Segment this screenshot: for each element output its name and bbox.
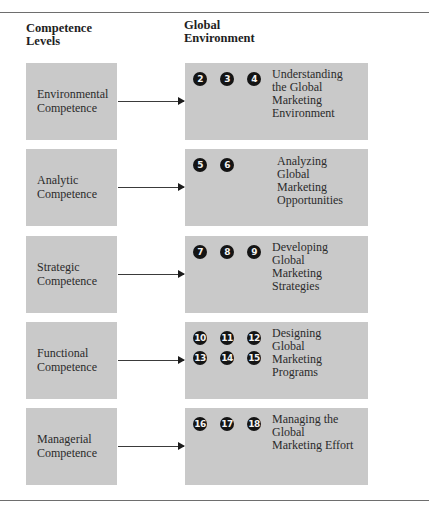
column-header-competence-levels: Competence Levels: [26, 22, 92, 48]
column-header-global-environment: Global Environment: [184, 19, 255, 45]
arrow-icon: [118, 187, 184, 188]
level-box-managerial: Managerial Competence: [26, 408, 117, 485]
desc-line: Environment: [272, 107, 343, 120]
level-label: Strategic Competence: [37, 261, 97, 288]
level-box-environmental: Environmental Competence: [26, 63, 117, 140]
level-line: Managerial: [37, 433, 97, 447]
environment-box-designing: 10 11 12 13 14 15 Designing Global Marke…: [185, 322, 368, 399]
arrow-icon: [118, 446, 184, 447]
environment-description: Managing the Global Marketing Effort: [272, 413, 353, 452]
chapter-badge-icon: 11: [220, 331, 234, 345]
desc-line: Strategies: [272, 280, 328, 293]
row-managerial: Managerial Competence 16 17 18 Managing …: [0, 408, 429, 485]
environment-description: Designing Global Marketing Programs: [272, 327, 322, 379]
arrow-icon: [118, 360, 184, 361]
chapter-badges: 2 3 4: [193, 72, 261, 86]
chapter-badge-icon: 9: [247, 245, 261, 259]
chapter-badge-icon: 13: [193, 351, 207, 365]
chapter-badge-icon: 16: [193, 417, 207, 431]
top-rule: [0, 12, 429, 13]
chapter-badge-icon: 8: [220, 245, 234, 259]
chapter-badge-icon: 17: [220, 417, 234, 431]
chapter-badge-icon: 14: [220, 351, 234, 365]
environment-box-managing: 16 17 18 Managing the Global Marketing E…: [185, 408, 368, 485]
level-line: Competence: [37, 275, 97, 289]
chapter-badges: 7 8 9: [193, 245, 261, 259]
level-line: Strategic: [37, 261, 97, 275]
bottom-rule: [0, 500, 429, 501]
arrow-icon: [118, 274, 184, 275]
environment-description: Analyzing Global Marketing Opportunities: [277, 155, 343, 207]
environment-box-understanding: 2 3 4 Understanding the Global Marketing…: [185, 63, 368, 140]
chapter-badge-icon: 10: [193, 331, 207, 345]
header-line: Levels: [26, 35, 92, 48]
level-line: Competence: [37, 361, 97, 375]
environment-box-developing: 7 8 9 Developing Global Marketing Strate…: [185, 236, 368, 313]
chapter-badge-icon: 3: [220, 72, 234, 86]
row-strategic: Strategic Competence 7 8 9 Developing Gl…: [0, 236, 429, 313]
chapter-badges: 5 6: [193, 158, 261, 172]
chapter-badge-icon: 2: [193, 72, 207, 86]
chapter-badge-icon: 12: [247, 331, 261, 345]
environment-description: Developing Global Marketing Strategies: [272, 241, 328, 293]
environment-description: Understanding the Global Marketing Envir…: [272, 68, 343, 120]
chapter-badge-icon: 6: [220, 158, 234, 172]
level-label: Analytic Competence: [37, 174, 97, 201]
level-box-strategic: Strategic Competence: [26, 236, 117, 313]
level-box-functional: Functional Competence: [26, 322, 117, 399]
level-line: Functional: [37, 347, 97, 361]
level-line: Competence: [37, 102, 108, 116]
level-line: Competence: [37, 188, 97, 202]
level-label: Functional Competence: [37, 347, 97, 374]
chapter-badge-icon: 4: [247, 72, 261, 86]
header-line: Environment: [184, 32, 255, 45]
chapter-badges: 16 17 18: [193, 417, 261, 431]
desc-line: Programs: [272, 366, 322, 379]
arrow-icon: [118, 101, 184, 102]
level-label: Environmental Competence: [37, 88, 108, 115]
chapter-badge-icon: 7: [193, 245, 207, 259]
row-functional: Functional Competence 10 11 12 13 14 15 …: [0, 322, 429, 399]
level-label: Managerial Competence: [37, 433, 97, 460]
row-analytic: Analytic Competence 5 6 Analyzing Global…: [0, 149, 429, 226]
level-line: Competence: [37, 447, 97, 461]
chapter-badges: 10 11 12 13 14 15: [193, 331, 261, 365]
chapter-badge-icon: 15: [247, 351, 261, 365]
environment-box-analyzing: 5 6 Analyzing Global Marketing Opportuni…: [185, 149, 368, 226]
level-box-analytic: Analytic Competence: [26, 149, 117, 226]
chapter-badge-icon: 18: [247, 417, 261, 431]
desc-line: Opportunities: [277, 194, 343, 207]
chapter-badge-icon: 5: [193, 158, 207, 172]
level-line: Environmental: [37, 88, 108, 102]
row-environmental: Environmental Competence 2 3 4 Understan…: [0, 63, 429, 140]
desc-line: Marketing Effort: [272, 439, 353, 452]
level-line: Analytic: [37, 174, 97, 188]
